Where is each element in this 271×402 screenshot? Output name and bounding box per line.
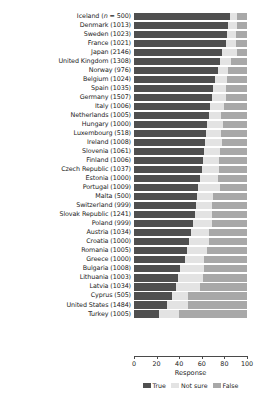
bar-segment-not-sure — [159, 310, 179, 317]
row-label: Greece (1000) — [0, 255, 134, 264]
bar-segment-true — [134, 139, 205, 146]
legend-label: Not sure — [181, 382, 208, 389]
row-label: Turkey (1005) — [0, 310, 134, 319]
bar-segment-false — [220, 148, 247, 155]
chart-row: Poland (999) — [0, 219, 271, 228]
bar-segment-not-sure — [187, 247, 207, 254]
chart-row: Greece (1000) — [0, 255, 271, 264]
bar-segment-true — [134, 256, 185, 263]
stacked-bar — [134, 22, 247, 29]
bar-segment-false — [212, 220, 247, 227]
bar-segment-false — [228, 67, 247, 74]
bar-segment-not-sure — [200, 175, 218, 182]
chart-row: Spain (1035) — [0, 84, 271, 93]
bar-segment-false — [179, 310, 247, 317]
chart-row: Ireland (1008) — [0, 138, 271, 147]
bar-segment-false — [209, 229, 247, 236]
bar-segment-true — [134, 58, 220, 65]
row-label: Estonia (1000) — [0, 174, 134, 183]
bar-segment-true — [134, 274, 178, 281]
row-label: Czech Republic (1037) — [0, 165, 134, 174]
bar-segment-false — [219, 157, 247, 164]
row-label: Slovenia (1061) — [0, 147, 134, 156]
bar-segment-true — [134, 94, 212, 101]
row-label: Portugal (1009) — [0, 183, 134, 192]
bar-segment-true — [134, 85, 213, 92]
bar-segment-true — [134, 193, 197, 200]
chart-row: Norway (976) — [0, 66, 271, 75]
bar-segment-not-sure — [189, 238, 208, 245]
bar-segment-true — [134, 49, 222, 56]
bar-segment-not-sure — [220, 58, 231, 65]
bar-segment-not-sure — [207, 121, 223, 128]
bar-segment-true — [134, 229, 191, 236]
stacked-bar — [134, 175, 247, 182]
stacked-bar — [134, 274, 247, 281]
chart-row: Germany (1507) — [0, 93, 271, 102]
chart-row: Japan (2146) — [0, 48, 271, 57]
stacked-bar — [134, 292, 247, 299]
bar-segment-false — [218, 175, 247, 182]
chart-row: Iceland (n = 500) — [0, 12, 271, 21]
row-label: Denmark (1013) — [0, 21, 134, 30]
stacked-bar — [134, 40, 247, 47]
legend-item: True — [143, 382, 166, 389]
x-tick-label: 40 — [175, 360, 183, 368]
row-label: Netherlands (1005) — [0, 111, 134, 120]
bar-segment-false — [200, 283, 247, 290]
bar-segment-not-sure — [204, 148, 220, 155]
chart-row: Estonia (1000) — [0, 174, 271, 183]
bar-segment-not-sure — [197, 193, 213, 200]
row-label: Poland (999) — [0, 219, 134, 228]
bar-segment-false — [212, 211, 247, 218]
legend-swatch-false — [213, 383, 221, 388]
stacked-bar — [134, 76, 247, 83]
stacked-bar — [134, 148, 247, 155]
stacked-bar — [134, 193, 247, 200]
bar-segment-true — [134, 157, 203, 164]
bar-segment-true — [134, 292, 172, 299]
bar-segment-true — [134, 130, 206, 137]
bar-segment-not-sure — [205, 139, 222, 146]
bar-segment-not-sure — [172, 292, 188, 299]
bar-segment-not-sure — [191, 229, 209, 236]
stacked-bar — [134, 256, 247, 263]
bar-segment-not-sure — [215, 76, 226, 83]
bar-segment-false — [203, 274, 247, 281]
bar-segment-true — [134, 247, 187, 254]
bar-segment-not-sure — [206, 130, 221, 137]
row-label: Croatia (1000) — [0, 237, 134, 246]
chart-rows: Iceland (n = 500)Denmark (1013)Sweden (1… — [0, 12, 271, 319]
chart-row: France (1021) — [0, 39, 271, 48]
bar-segment-not-sure — [178, 274, 203, 281]
bar-segment-false — [188, 301, 247, 308]
stacked-bar — [134, 220, 247, 227]
bar-segment-false — [226, 94, 247, 101]
bar-segment-false — [221, 130, 247, 137]
bar-segment-false — [227, 76, 247, 83]
row-label: Japan (2146) — [0, 48, 134, 57]
chart-legend: TrueNot sureFalse — [134, 382, 247, 389]
chart-row: Hungary (1000) — [0, 120, 271, 129]
bar-segment-false — [237, 13, 247, 20]
stacked-bar — [134, 13, 247, 20]
x-tick-label: 0 — [132, 360, 136, 368]
bar-segment-true — [134, 283, 176, 290]
bar-segment-not-sure — [202, 166, 219, 173]
row-label: Germany (1507) — [0, 93, 134, 102]
row-label: Malta (500) — [0, 192, 134, 201]
stacked-bar — [134, 31, 247, 38]
stacked-bar — [134, 103, 247, 110]
row-label: Latvia (1034) — [0, 282, 134, 291]
chart-row: Austria (1034) — [0, 228, 271, 237]
bar-segment-true — [134, 22, 228, 29]
bar-segment-not-sure — [228, 22, 237, 29]
stacked-bar — [134, 85, 247, 92]
x-axis-title: Response — [134, 369, 247, 377]
stacked-bar — [134, 184, 247, 191]
chart-row: Lithuania (1003) — [0, 273, 271, 282]
row-label: Iceland (n = 500) — [0, 12, 134, 21]
bar-segment-false — [219, 166, 247, 173]
stacked-bar — [134, 157, 247, 164]
bar-segment-true — [134, 40, 226, 47]
